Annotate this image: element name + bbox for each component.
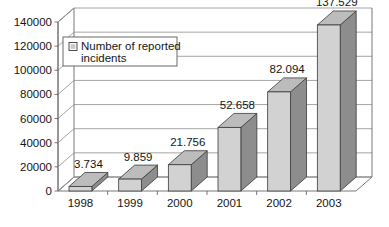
left-wall bbox=[58, 8, 74, 191]
value-label: 3.734 bbox=[74, 158, 103, 170]
legend-label-line-1: Number of reported bbox=[81, 40, 181, 52]
chart-legend: Number of reported incidents bbox=[63, 37, 181, 66]
value-label: 137.529 bbox=[316, 0, 358, 8]
value-label: 82.094 bbox=[270, 63, 306, 75]
x-axis: 199819992000200120022003 bbox=[68, 191, 342, 209]
y-axis: 020000400006000080000100000120000140000 bbox=[14, 16, 58, 197]
bar-chart-3d: 020000400006000080000100000120000140000 … bbox=[0, 0, 389, 227]
y-tick-label: 100000 bbox=[14, 64, 52, 76]
y-tick-label: 120000 bbox=[14, 40, 52, 52]
value-label: 21.756 bbox=[170, 136, 205, 148]
bar-2002 bbox=[268, 78, 307, 191]
legend-swatch bbox=[71, 44, 76, 49]
y-tick-label: 20000 bbox=[20, 161, 52, 173]
value-label: 52.658 bbox=[220, 99, 255, 111]
x-tick-label: 1999 bbox=[117, 197, 143, 209]
y-tick-label: 60000 bbox=[20, 113, 52, 125]
x-tick-label: 2002 bbox=[266, 197, 292, 209]
y-tick-label: 0 bbox=[46, 185, 52, 197]
y-tick-label: 40000 bbox=[20, 137, 52, 149]
x-tick-label: 1998 bbox=[68, 197, 94, 209]
x-tick-label: 2000 bbox=[167, 197, 193, 209]
y-tick-label: 140000 bbox=[14, 16, 52, 28]
bar-2001 bbox=[218, 113, 257, 191]
x-tick-label: 2001 bbox=[217, 197, 243, 209]
legend-label-line-2: incidents bbox=[81, 52, 127, 64]
y-tick-label: 80000 bbox=[20, 88, 52, 100]
bar-2003 bbox=[317, 11, 356, 191]
value-label: 9.859 bbox=[124, 151, 153, 163]
chart-container: 020000400006000080000100000120000140000 … bbox=[0, 0, 389, 227]
x-tick-label: 2003 bbox=[316, 197, 342, 209]
